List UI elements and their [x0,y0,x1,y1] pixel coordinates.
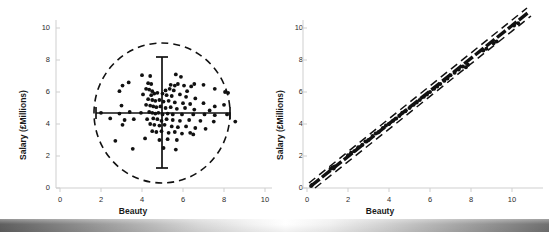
scatter-point [202,101,206,105]
scatter-point [164,89,168,93]
scatter-point [169,83,173,87]
scatter-point [360,143,364,147]
scatter-point [183,106,187,110]
scatter-point [193,126,197,130]
scatter-point [212,120,216,124]
scatter-point [155,117,159,121]
scatter-point [192,82,196,86]
scatter-point [208,109,212,113]
scatter-point [438,82,442,86]
scatter-point [162,100,166,104]
scatter-point [176,125,180,129]
scatter-point [139,111,143,115]
scatter-point [131,147,135,151]
scatter-point [154,130,158,134]
bottom-gradient-shade [0,219,549,232]
scatter-point [173,101,177,105]
scatter-point [158,138,162,142]
scatter-point [162,146,166,150]
scatter-point [408,106,412,110]
scatter-point [377,130,381,134]
scatter-point [120,104,124,108]
chart-panel-left: Salary (£Millions) 0 2 4 6 8 10 0 2 4 6 … [0,0,274,216]
scatter-point [161,92,165,96]
scatter-point [187,118,191,122]
scatter-point [152,123,156,127]
scatter-point [516,21,520,25]
scatter-point [163,123,167,127]
figure-canvas: Salary (£Millions) 0 2 4 6 8 10 0 2 4 6 … [0,0,549,216]
scatter-point [174,148,178,152]
scatter-point [161,113,165,117]
scatter-point [484,47,488,51]
scatter-point [169,105,173,109]
scatter-point [180,113,184,117]
scatter-point [193,97,197,101]
scatter-point [113,139,117,143]
x-tick-marks-right [307,188,512,192]
scatter-point [449,73,453,77]
scatter-point [148,122,152,126]
scatter-point [226,91,230,95]
scatter-point [175,107,179,111]
scatter-point [167,99,171,103]
scatter-point [512,24,516,28]
scatter-point [213,113,217,117]
scatter-point [167,131,171,135]
scatter-point [128,110,132,114]
plot-area-right [275,0,549,216]
scatter-point [418,98,422,102]
scatter-point [367,138,371,142]
chart-panel-right: Salary (£Millions) 0 2 4 6 8 10 0 2 4 6 … [275,0,549,216]
scatter-point [356,145,360,149]
scatter-point [121,123,125,127]
scatter-point [178,119,182,123]
scatter-point [159,105,163,109]
band-upper-bound [309,8,527,183]
scatter-point [151,117,155,121]
scatter-point [445,76,449,80]
scatter-point [150,129,154,133]
scatter-point [213,87,217,91]
scatter-point [143,137,147,141]
scatter-point [203,113,207,117]
scatter-point [158,124,162,128]
scatter-point [428,90,432,94]
scatter-point [118,89,122,93]
scatter-point [170,94,174,98]
scatter-point [191,113,195,117]
scatter-point [310,183,314,187]
scatter-point [108,117,112,121]
scatter-point [188,102,192,106]
scatter-point [199,119,203,123]
scatter-point [121,84,125,88]
scatter-point [495,40,499,44]
scatter-point [157,111,161,115]
scatter-point [387,122,391,126]
scatter-point [182,84,186,88]
scatter-point [127,81,131,85]
scatter-point [191,133,195,137]
scatter-point [141,93,145,97]
scatter-point [166,137,170,141]
scatter-point [181,101,185,105]
scatter-point [118,112,122,116]
y-tick-marks-right [303,28,307,188]
scatter-point [180,132,184,136]
scatter-point [99,111,103,115]
scatter-point [168,87,172,91]
scatter-point [173,130,177,134]
scatter-point [166,112,170,116]
scatter-point [160,129,164,133]
scatter-point [192,108,196,112]
scatter-point [352,149,356,153]
scatter-point [202,83,206,87]
y-tick-marks-left [56,28,60,188]
scatter-point [170,125,174,129]
scatter-point [333,164,337,168]
scatter-point [176,82,180,86]
scatter-point [184,95,188,99]
scatter-point [457,68,461,72]
scatter-point [164,106,168,110]
plot-area-left [0,0,274,216]
